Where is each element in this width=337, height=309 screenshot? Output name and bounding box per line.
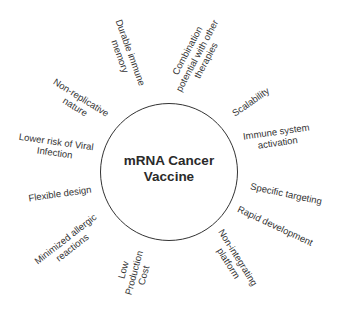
feature-non-integrating-platform: Non-integrating platform	[203, 221, 263, 300]
feature-low-production-cost: Low Production Cost	[111, 240, 157, 306]
feature-line: Flexible design	[20, 183, 101, 205]
feature-scalability: Scalability	[219, 78, 282, 127]
center-title: mRNA Cancer Vaccine	[100, 153, 238, 185]
feature-non-replicative-nature: Non-replicative nature	[39, 72, 118, 132]
feature-combination-potential: Combination potential with other therapi…	[160, 4, 235, 107]
feature-flexible-design: Flexible design	[20, 183, 101, 205]
feature-line: Specific targeting	[241, 180, 331, 209]
center-title-line1: mRNA Cancer	[100, 153, 238, 169]
feature-rapid-development: Rapid development	[232, 202, 318, 250]
center-title-line2: Vaccine	[100, 169, 238, 185]
feature-line: Scalability	[219, 78, 282, 127]
feature-specific-targeting: Specific targeting	[241, 180, 331, 209]
radial-diagram: mRNA Cancer Vaccine Durable immune memor…	[0, 0, 337, 309]
feature-line: Rapid development	[232, 202, 318, 250]
feature-immune-system-activation: Immune system activation	[231, 121, 323, 154]
feature-lower-risk-viral-infection: Lower risk of Viral Infection	[7, 130, 104, 164]
feature-minimized-allergic-reactions: Minimized allergic reactions	[27, 208, 111, 280]
feature-line: Minimized allergic	[27, 208, 104, 272]
feature-durable-immune-memory: Durable immune memory	[100, 9, 151, 101]
